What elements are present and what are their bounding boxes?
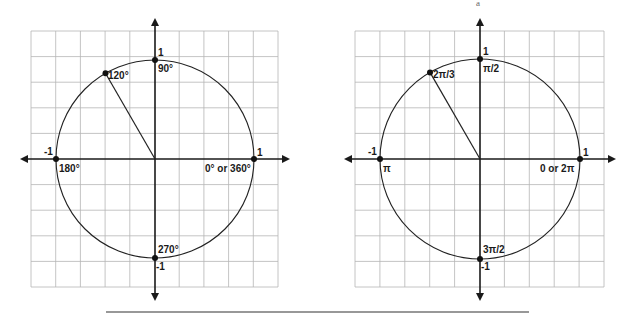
radius-120 [106,73,156,159]
label-120: 120° [108,70,129,81]
label-right-value: 1 [583,147,589,158]
label-pi-2: π/2 [483,63,499,74]
point-180 [53,156,59,162]
label-top-value: 1 [483,46,489,57]
label-bottom-value: -1 [481,261,490,272]
label-180: 180° [59,163,80,174]
label-left-value: -1 [368,146,377,157]
label-0-2pi: 0 or 2π [540,163,575,174]
label-left-value: -1 [44,146,53,157]
label-2pi-3: 2π/3 [433,69,455,80]
top-mark: a [476,0,480,8]
label-270: 270° [158,244,179,255]
label-90: 90° [158,63,173,74]
label-0-360: 0° or 360° [205,163,251,174]
label-bottom-value: -1 [156,261,165,272]
label-top-value: 1 [158,47,164,58]
point-pi [377,156,383,162]
label-pi: π [383,163,391,174]
unit-circle-degrees: 1 90° -1 180° 1 0° or 360° 270° -1 120° [22,20,288,299]
label-3pi-2: 3π/2 [483,244,505,255]
unit-circle-radians: a [346,0,614,299]
label-right-value: 1 [257,147,263,158]
unit-circle-figure: 1 90° -1 180° 1 0° or 360° 270° -1 120° … [0,0,628,317]
